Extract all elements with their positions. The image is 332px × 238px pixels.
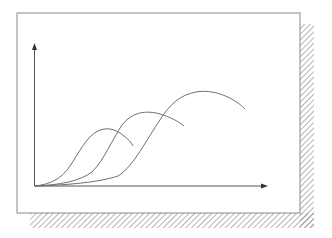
frame xyxy=(17,13,300,213)
diagram-canvas xyxy=(0,0,332,238)
